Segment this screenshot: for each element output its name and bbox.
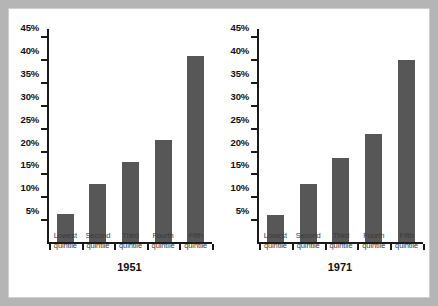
category-label-line: Fifth	[179, 231, 212, 241]
plot-area-1971: 5%10%15%20%25%30%35%40%45%	[257, 29, 423, 244]
bar-slot	[179, 29, 212, 242]
x-tick	[423, 244, 425, 250]
y-tick-40%	[41, 59, 47, 61]
bar-slot	[357, 29, 390, 242]
y-tick-20%	[41, 151, 47, 153]
y-tick-label-25%: 25%	[231, 113, 249, 124]
category-label-line: quintile	[82, 241, 115, 251]
bar-slot	[390, 29, 423, 242]
plot-area-1951: 5%10%15%20%25%30%35%40%45%	[47, 29, 212, 244]
y-tick-40%	[251, 59, 257, 61]
x-category-label-second-quintile: Secondquintile	[292, 231, 325, 259]
x-category-label-lowest-quintile: Lowestquintile	[49, 231, 82, 259]
y-tick-label-40%: 40%	[21, 45, 39, 56]
y-tick-label-25%: 25%	[21, 113, 39, 124]
y-tick-label-20%: 20%	[21, 136, 39, 147]
y-tick-30%	[41, 105, 47, 107]
category-label-line: quintile	[179, 241, 212, 251]
chart-panel-1951: 5%10%15%20%25%30%35%40%45% Lowestquintil…	[9, 9, 219, 297]
bar-series-1951	[49, 29, 212, 242]
category-label-line: Second	[292, 231, 325, 241]
y-tick-20%	[251, 151, 257, 153]
x-category-label-fifth-quintile: Fifthquintile	[390, 231, 423, 259]
y-tick-45%	[251, 36, 257, 38]
category-label-line: quintile	[390, 241, 423, 251]
y-tick-label-45%: 45%	[21, 22, 39, 33]
bar-third-quintile	[122, 162, 139, 242]
y-tick-5%	[251, 219, 257, 221]
x-category-label-third-quintile: Thirdquintile	[114, 231, 147, 259]
category-label-line: quintile	[292, 241, 325, 251]
y-tick-15%	[41, 173, 47, 175]
category-label-line: quintile	[49, 241, 82, 251]
category-label-line: quintile	[357, 241, 390, 251]
y-tick-label-30%: 30%	[21, 90, 39, 101]
y-tick-25%	[251, 128, 257, 130]
x-category-label-fourth-quintile: Fourthquintile	[357, 231, 390, 259]
category-label-line: Third	[325, 231, 358, 241]
y-tick-10%	[251, 196, 257, 198]
bar-fifth-quintile	[398, 60, 415, 242]
x-axis-category-labels-1971: LowestquintileSecondquintileThirdquintil…	[259, 231, 423, 259]
y-tick-label-20%: 20%	[231, 136, 249, 147]
bar-slot	[49, 29, 82, 242]
y-tick-label-15%: 15%	[21, 159, 39, 170]
bar-fourth-quintile	[365, 134, 382, 242]
category-label-line: quintile	[325, 241, 358, 251]
bar-slot	[114, 29, 147, 242]
y-tick-25%	[41, 128, 47, 130]
y-tick-15%	[251, 173, 257, 175]
category-label-line: Fifth	[390, 231, 423, 241]
y-tick-label-30%: 30%	[231, 90, 249, 101]
x-category-label-lowest-quintile: Lowestquintile	[259, 231, 292, 259]
y-tick-label-5%: 5%	[26, 205, 39, 216]
y-tick-label-35%: 35%	[21, 67, 39, 78]
y-tick-30%	[251, 105, 257, 107]
y-tick-10%	[41, 196, 47, 198]
category-label-line: quintile	[259, 241, 292, 251]
bar-slot	[259, 29, 292, 242]
x-category-label-fourth-quintile: Fourthquintile	[147, 231, 180, 259]
y-tick-35%	[251, 82, 257, 84]
chart-canvas: 5%10%15%20%25%30%35%40%45% Lowestquintil…	[8, 8, 430, 298]
y-tick-label-10%: 10%	[21, 182, 39, 193]
y-tick-5%	[41, 219, 47, 221]
bar-series-1971	[259, 29, 423, 242]
y-tick-label-40%: 40%	[231, 45, 249, 56]
bar-fourth-quintile	[155, 140, 172, 242]
category-label-line: Lowest	[49, 231, 82, 241]
category-label-line: quintile	[114, 241, 147, 251]
category-label-line: quintile	[147, 241, 180, 251]
category-label-line: Fourth	[357, 231, 390, 241]
bar-fifth-quintile	[187, 56, 204, 242]
bar-slot	[325, 29, 358, 242]
x-tick	[212, 244, 214, 250]
category-label-line: Fourth	[147, 231, 180, 241]
chart-title-1951: 1951	[47, 261, 212, 273]
chart-frame: 5%10%15%20%25%30%35%40%45% Lowestquintil…	[0, 0, 438, 306]
chart-panel-1971: 5%10%15%20%25%30%35%40%45% Lowestquintil…	[219, 9, 429, 297]
y-tick-label-45%: 45%	[231, 22, 249, 33]
category-label-line: Second	[82, 231, 115, 241]
bar-slot	[82, 29, 115, 242]
bar-slot	[292, 29, 325, 242]
bar-slot	[147, 29, 180, 242]
category-label-line: Lowest	[259, 231, 292, 241]
category-label-line: Third	[114, 231, 147, 241]
bar-third-quintile	[332, 158, 349, 242]
y-tick-label-15%: 15%	[231, 159, 249, 170]
x-category-label-fifth-quintile: Fifthquintile	[179, 231, 212, 259]
chart-title-1971: 1971	[257, 261, 423, 273]
y-tick-35%	[41, 82, 47, 84]
y-tick-label-10%: 10%	[231, 182, 249, 193]
y-tick-label-5%: 5%	[236, 205, 249, 216]
x-axis-category-labels-1951: LowestquintileSecondquintileThirdquintil…	[49, 231, 212, 259]
y-tick-45%	[41, 36, 47, 38]
y-tick-label-35%: 35%	[231, 67, 249, 78]
x-category-label-third-quintile: Thirdquintile	[325, 231, 358, 259]
x-category-label-second-quintile: Secondquintile	[82, 231, 115, 259]
